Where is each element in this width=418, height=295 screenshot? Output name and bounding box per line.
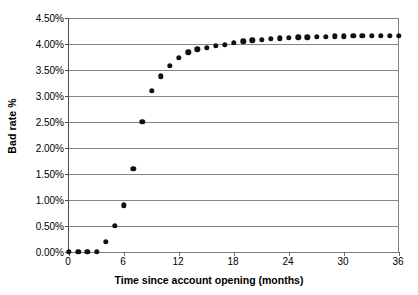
data-point (360, 33, 365, 38)
plot-top-border (69, 18, 399, 19)
data-point (213, 43, 218, 48)
x-axis-tick-label: 18 (227, 256, 238, 267)
data-point (140, 119, 145, 124)
data-point (396, 33, 401, 38)
y-axis-tick-mark (65, 70, 69, 71)
data-point (222, 42, 227, 47)
gridline (69, 174, 399, 175)
y-axis-tick-mark (65, 18, 69, 19)
y-axis-tick-label: 4.00% (22, 39, 64, 50)
data-point (167, 63, 172, 68)
data-point (121, 202, 126, 207)
x-axis-title: Time since account opening (months) (0, 274, 418, 286)
data-point (369, 33, 374, 38)
data-point (286, 35, 291, 40)
y-axis-tick-label: 0.50% (22, 221, 64, 232)
data-point (204, 45, 209, 50)
data-point (185, 50, 190, 55)
data-point (387, 33, 392, 38)
data-point (250, 38, 255, 43)
y-axis-tick-mark (65, 96, 69, 97)
x-axis-tick-label: 12 (172, 256, 183, 267)
plot-right-border (398, 18, 399, 252)
y-axis-tick-label: 3.00% (22, 91, 64, 102)
data-point (268, 36, 273, 41)
data-point (85, 249, 90, 254)
x-axis-tick-label: 0 (65, 256, 71, 267)
gridline (69, 148, 399, 149)
data-point (378, 33, 383, 38)
data-point (94, 249, 99, 254)
data-point (341, 33, 346, 38)
gridline (69, 200, 399, 201)
y-axis-tick-mark (65, 122, 69, 123)
y-axis-tick-labels: 0.00%0.50%1.00%1.50%2.00%2.50%3.00%3.50%… (22, 0, 64, 295)
data-point (350, 33, 355, 38)
x-axis-tick-label: 30 (337, 256, 348, 267)
data-point (295, 35, 300, 40)
y-axis-tick-mark (65, 174, 69, 175)
data-point (149, 88, 154, 93)
data-point (259, 37, 264, 42)
x-axis-tick-labels: 061218243036 (0, 256, 418, 272)
data-point (314, 34, 319, 39)
data-point (66, 249, 71, 254)
gridline (69, 226, 399, 227)
data-point (332, 33, 337, 38)
data-point (103, 239, 108, 244)
data-point (195, 46, 200, 51)
y-axis-tick-label: 2.00% (22, 143, 64, 154)
data-point (75, 249, 80, 254)
data-point (277, 36, 282, 41)
data-point (176, 55, 181, 60)
plot-area (68, 18, 399, 253)
y-axis-tick-mark (65, 226, 69, 227)
y-axis-tick-mark (65, 148, 69, 149)
gridline (69, 122, 399, 123)
data-point (130, 166, 135, 171)
gridline (69, 96, 399, 97)
y-axis-tick-label: 2.50% (22, 117, 64, 128)
data-point (323, 34, 328, 39)
y-axis-tick-label: 1.00% (22, 195, 64, 206)
gridline (69, 70, 399, 71)
y-axis-title: Bad rate % (2, 0, 22, 252)
y-axis-tick-label: 1.50% (22, 169, 64, 180)
y-axis-tick-label: 3.50% (22, 65, 64, 76)
y-axis-tick-mark (65, 44, 69, 45)
data-point (305, 35, 310, 40)
data-point (158, 74, 163, 79)
y-axis-title-label: Bad rate % (6, 98, 18, 153)
x-axis-tick-label: 6 (120, 256, 126, 267)
chart-figure: Bad rate % 0.00%0.50%1.00%1.50%2.00%2.50… (0, 0, 418, 295)
y-axis-tick-label: 4.50% (22, 13, 64, 24)
y-axis-tick-mark (65, 200, 69, 201)
x-axis-tick-label: 36 (392, 256, 403, 267)
x-axis-tick-label: 24 (282, 256, 293, 267)
data-point (112, 223, 117, 228)
